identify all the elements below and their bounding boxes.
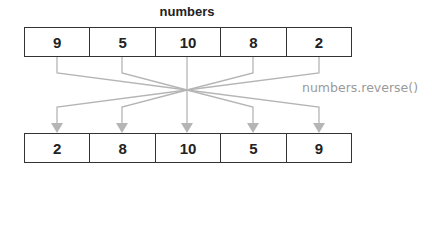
arrow-head-icon xyxy=(247,123,259,133)
arrow-head-icon xyxy=(313,123,325,133)
reversed-array: 2 8 10 5 9 xyxy=(24,133,352,163)
array-cell: 5 xyxy=(221,134,286,162)
arrow-head-icon xyxy=(51,123,63,133)
array-cell: 8 xyxy=(90,134,155,162)
array-cell: 9 xyxy=(287,134,351,162)
method-call-label: numbers.reverse() xyxy=(302,80,418,95)
array-cell: 10 xyxy=(156,134,221,162)
arrow-head-icon xyxy=(181,123,193,133)
arrow-head-icon xyxy=(116,123,128,133)
array-cell: 2 xyxy=(25,134,90,162)
